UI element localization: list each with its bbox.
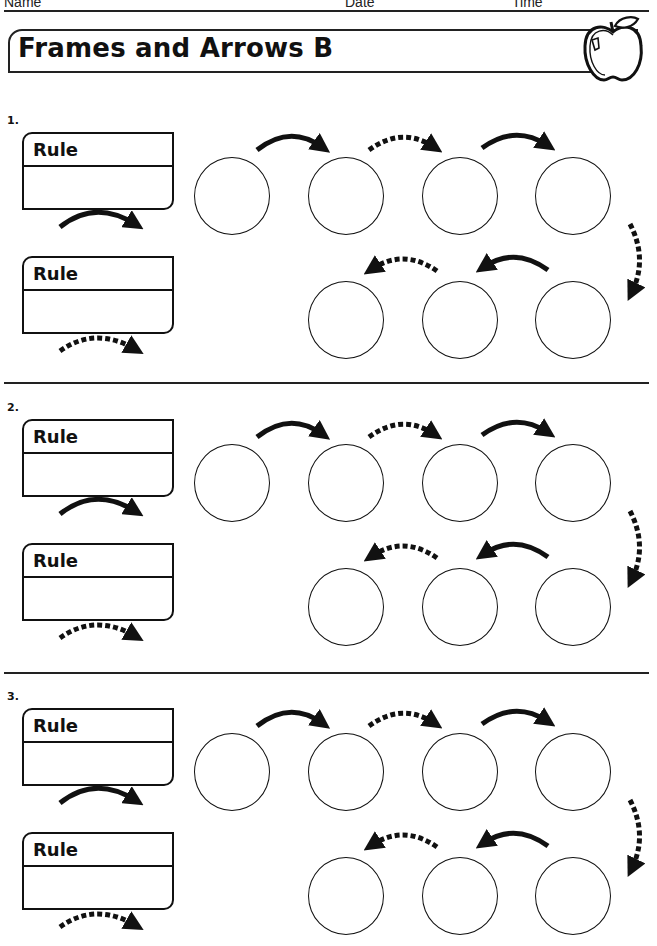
header-line bbox=[4, 10, 649, 12]
section-divider bbox=[4, 672, 649, 674]
solid-arrow-icon bbox=[257, 712, 322, 726]
solid-arrow-icon bbox=[60, 788, 135, 803]
dashed-arrow-icon bbox=[630, 800, 640, 868]
solid-arrow-icon bbox=[482, 135, 547, 148]
dashed-arrow-icon bbox=[369, 424, 434, 437]
solid-arrow-icon bbox=[257, 423, 322, 437]
solid-arrow-icon bbox=[60, 212, 135, 227]
dashed-arrow-icon bbox=[60, 914, 135, 927]
date-label: Date bbox=[345, 0, 375, 10]
arrows-layer bbox=[0, 114, 657, 404]
solid-arrow-icon bbox=[257, 136, 322, 150]
apple-icon bbox=[578, 14, 648, 86]
dashed-arrow-icon bbox=[630, 511, 640, 579]
name-label: Name bbox=[4, 0, 41, 10]
solid-arrow-icon bbox=[482, 422, 547, 435]
time-label: Time bbox=[512, 0, 543, 10]
dashed-arrow-icon bbox=[60, 625, 135, 638]
arrows-layer bbox=[0, 690, 657, 946]
page-title: Frames and Arrows B bbox=[18, 33, 333, 63]
section-divider bbox=[4, 382, 649, 384]
dashed-arrow-icon bbox=[369, 713, 434, 726]
solid-arrow-icon bbox=[482, 711, 547, 724]
dashed-arrow-icon bbox=[372, 835, 437, 847]
dashed-arrow-icon bbox=[372, 259, 437, 271]
dashed-arrow-icon bbox=[60, 338, 135, 351]
dashed-arrow-icon bbox=[372, 546, 437, 558]
arrows-layer bbox=[0, 401, 657, 691]
dashed-arrow-icon bbox=[369, 137, 434, 150]
solid-arrow-icon bbox=[484, 833, 548, 846]
solid-arrow-icon bbox=[60, 499, 135, 514]
solid-arrow-icon bbox=[484, 257, 548, 270]
dashed-arrow-icon bbox=[630, 224, 640, 292]
solid-arrow-icon bbox=[484, 544, 548, 557]
